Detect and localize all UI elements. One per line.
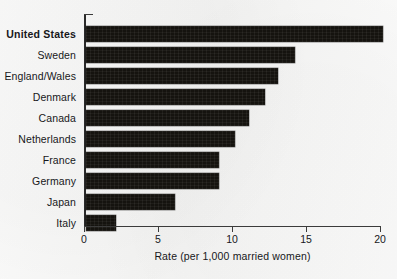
category-label: Italy xyxy=(0,217,76,229)
x-axis-tick xyxy=(380,227,381,232)
category-label: Sweden xyxy=(0,49,76,61)
bar xyxy=(86,173,219,189)
bar xyxy=(86,47,295,63)
x-axis-tick xyxy=(232,227,233,232)
bar xyxy=(86,194,175,210)
x-axis-tick xyxy=(158,227,159,232)
x-axis-tick xyxy=(306,227,307,232)
plot-area xyxy=(84,14,380,226)
category-label: France xyxy=(0,154,76,166)
bar xyxy=(86,68,278,84)
bar xyxy=(86,89,265,105)
category-label: Netherlands xyxy=(0,133,76,145)
x-axis-tick-label: 5 xyxy=(143,233,173,245)
x-axis-tick xyxy=(84,227,85,232)
bar xyxy=(86,110,249,126)
bar xyxy=(86,215,116,231)
bar xyxy=(86,26,383,42)
category-label: United States xyxy=(0,28,76,40)
x-axis-tick-label: 0 xyxy=(69,233,99,245)
x-axis-tick-label: 15 xyxy=(291,233,321,245)
bar-chart-figure: 05101520 United StatesSwedenEngland/Wale… xyxy=(0,0,397,279)
bar xyxy=(86,131,235,147)
category-label: Japan xyxy=(0,196,76,208)
category-label: Canada xyxy=(0,112,76,124)
bar xyxy=(86,152,219,168)
x-axis-title: Rate (per 1,000 married women) xyxy=(84,250,381,262)
category-label: Germany xyxy=(0,175,76,187)
x-axis-tick-label: 20 xyxy=(365,233,395,245)
y-axis-top-tick xyxy=(84,14,93,15)
category-label: England/Wales xyxy=(0,70,76,82)
category-label: Denmark xyxy=(0,91,76,103)
x-axis-tick-label: 10 xyxy=(217,233,247,245)
